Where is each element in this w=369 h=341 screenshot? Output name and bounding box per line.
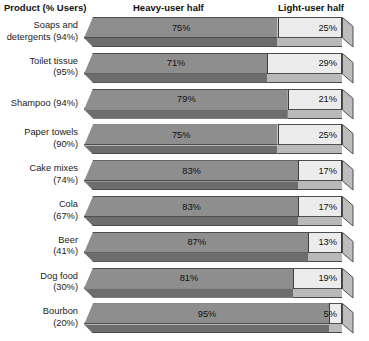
bar-front-face-light bbox=[308, 253, 342, 262]
bar-top-face: 95%5% bbox=[84, 303, 342, 324]
row-category-label: Shampoo (94%) bbox=[0, 98, 78, 110]
bar-front-face-heavy bbox=[84, 253, 308, 262]
bar-value-heavy: 71% bbox=[167, 58, 186, 68]
bar-front-face-heavy bbox=[84, 110, 288, 119]
bar-front-face-heavy bbox=[84, 324, 329, 333]
bar-end-cap bbox=[342, 268, 353, 298]
bar-front-face-light bbox=[288, 110, 342, 119]
bar-top-face: 83%17% bbox=[84, 160, 342, 181]
bar-value-heavy: 81% bbox=[180, 273, 199, 283]
chart-row: Paper towels (90%)75%25% bbox=[0, 124, 369, 155]
bar-segment-heavy[interactable]: 83% bbox=[84, 196, 298, 217]
bar-group: 79%21% bbox=[84, 89, 360, 119]
bar-segment-heavy[interactable]: 81% bbox=[84, 268, 293, 289]
bar-top-face: 75%25% bbox=[84, 17, 342, 38]
chart-row: Shampoo (94%)79%21% bbox=[0, 89, 369, 120]
bar-top-face: 75%25% bbox=[84, 124, 342, 145]
bar-end-cap bbox=[342, 160, 353, 190]
bar-segment-heavy[interactable]: 95% bbox=[84, 303, 329, 324]
row-category-label: Bourbon (20%) bbox=[0, 306, 78, 329]
stacked-bar-chart: Product (% Users) Heavy-user half Light-… bbox=[0, 0, 369, 341]
row-category-label: Dog food (30%) bbox=[0, 271, 78, 294]
bar-end-cap bbox=[342, 53, 353, 83]
chart-row: Cake mixes (74%)83%17% bbox=[0, 160, 369, 191]
bar-value-light: 21% bbox=[318, 94, 337, 104]
bar-group: 83%17% bbox=[84, 160, 360, 190]
row-category-label: Paper towels (90%) bbox=[0, 127, 78, 150]
bar-segment-heavy[interactable]: 79% bbox=[84, 89, 288, 110]
bar-front-face-light bbox=[267, 74, 342, 83]
bar-end-cap bbox=[342, 232, 353, 262]
chart-row: Dog food (30%)81%19% bbox=[0, 268, 369, 299]
bar-value-heavy: 75% bbox=[172, 23, 191, 33]
bar-value-heavy: 75% bbox=[172, 130, 191, 140]
column-header-heavy-user: Heavy-user half bbox=[133, 0, 204, 16]
bar-top-face: 71%29% bbox=[84, 53, 342, 74]
bar-segment-light[interactable]: 25% bbox=[278, 17, 343, 38]
bar-group: 87%13% bbox=[84, 232, 360, 262]
bar-value-heavy: 79% bbox=[177, 94, 196, 104]
row-category-label: Beer (41%) bbox=[0, 235, 78, 258]
bar-segment-light[interactable]: 21% bbox=[288, 89, 342, 110]
bar-group: 75%25% bbox=[84, 124, 360, 154]
bar-front-face-light bbox=[329, 324, 342, 333]
bar-segment-light[interactable]: 25% bbox=[278, 124, 343, 145]
bar-segment-light[interactable]: 19% bbox=[293, 268, 342, 289]
bar-front-face-heavy bbox=[84, 145, 278, 154]
bar-value-light: 25% bbox=[318, 130, 337, 140]
bar-group: 83%17% bbox=[84, 196, 360, 226]
bar-segment-light[interactable]: 13% bbox=[308, 232, 342, 253]
bar-end-cap bbox=[342, 196, 353, 226]
bar-value-heavy: 83% bbox=[182, 166, 201, 176]
bar-end-cap bbox=[342, 303, 353, 333]
bar-value-light: 17% bbox=[318, 166, 337, 176]
chart-row: Soaps and detergents (94%)75%25% bbox=[0, 17, 369, 48]
row-category-label: Cola (67%) bbox=[0, 199, 78, 222]
bar-top-face: 87%13% bbox=[84, 232, 342, 253]
chart-row: Beer (41%)87%13% bbox=[0, 232, 369, 263]
bar-segment-heavy[interactable]: 71% bbox=[84, 53, 267, 74]
bar-segment-heavy[interactable]: 83% bbox=[84, 160, 298, 181]
bar-top-face: 83%17% bbox=[84, 196, 342, 217]
bar-segment-heavy[interactable]: 75% bbox=[84, 17, 278, 38]
bar-value-light: 19% bbox=[318, 273, 337, 283]
bar-group: 81%19% bbox=[84, 268, 360, 298]
bar-end-cap bbox=[342, 124, 353, 154]
bar-segment-heavy[interactable]: 87% bbox=[84, 232, 308, 253]
bar-segment-light[interactable]: 29% bbox=[267, 53, 342, 74]
bar-front-face-heavy bbox=[84, 217, 298, 226]
bar-group: 95%5% bbox=[84, 303, 360, 333]
bar-front-face-heavy bbox=[84, 74, 267, 83]
bar-front-face-heavy bbox=[84, 38, 278, 47]
bar-value-light: 25% bbox=[318, 23, 337, 33]
bar-front-face-light bbox=[298, 181, 342, 190]
bar-group: 71%29% bbox=[84, 53, 360, 83]
row-category-label: Cake mixes (74%) bbox=[0, 163, 78, 186]
chart-row: Bourbon (20%)95%5% bbox=[0, 303, 369, 334]
bar-front-face-light bbox=[293, 289, 342, 298]
bar-value-light: 29% bbox=[318, 58, 337, 68]
row-category-label: Toilet tissue (95%) bbox=[0, 56, 78, 79]
row-category-label: Soaps and detergents (94%) bbox=[0, 20, 78, 43]
bar-front-face-heavy bbox=[84, 181, 298, 190]
bar-segment-light[interactable]: 5% bbox=[329, 303, 342, 324]
bar-value-heavy: 95% bbox=[198, 309, 217, 319]
column-header-light-user: Light-user half bbox=[278, 0, 344, 16]
bar-value-light: 17% bbox=[318, 202, 337, 212]
bar-front-face-light bbox=[278, 38, 343, 47]
chart-row: Toilet tissue (95%)71%29% bbox=[0, 53, 369, 84]
bar-value-heavy: 87% bbox=[187, 237, 206, 247]
bar-top-face: 79%21% bbox=[84, 89, 342, 110]
bar-value-light: 13% bbox=[318, 237, 337, 247]
bar-segment-light[interactable]: 17% bbox=[298, 196, 342, 217]
chart-row: Cola (67%)83%17% bbox=[0, 196, 369, 227]
bar-value-heavy: 83% bbox=[182, 202, 201, 212]
bar-segment-light[interactable]: 17% bbox=[298, 160, 342, 181]
bar-value-light: 5% bbox=[324, 309, 337, 319]
column-header-product: Product (% Users) bbox=[4, 0, 86, 16]
bar-segment-heavy[interactable]: 75% bbox=[84, 124, 278, 145]
bar-front-face-light bbox=[278, 145, 343, 154]
bar-front-face-heavy bbox=[84, 289, 293, 298]
bar-end-cap bbox=[342, 89, 353, 119]
bar-front-face-light bbox=[298, 217, 342, 226]
